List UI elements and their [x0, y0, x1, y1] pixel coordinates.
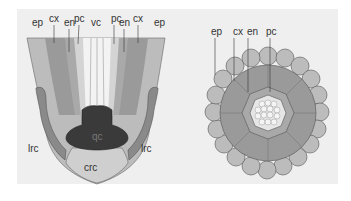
label-lrc-right: lrc	[141, 143, 152, 154]
label-ep: ep	[211, 26, 223, 37]
label-pc: pc	[266, 26, 277, 37]
label-qc: qc	[92, 131, 103, 142]
label-ep-left: ep	[32, 17, 44, 28]
root-diagram: ep cx en pc vc pc en cx ep qc lrc lrc cr…	[0, 0, 351, 201]
label-lrc-left: lrc	[28, 143, 39, 154]
label-cx-right: cx	[133, 13, 143, 24]
label-en-right: en	[119, 17, 130, 28]
label-ep-right: ep	[154, 17, 166, 28]
label-cx-left: cx	[49, 13, 59, 24]
label-cx: cx	[233, 26, 243, 37]
label-vc: vc	[91, 17, 101, 28]
root-cross-section: ep cx en pc	[205, 26, 329, 179]
label-en: en	[247, 26, 258, 37]
label-crc: crc	[84, 162, 97, 173]
root-tip-longitudinal: ep cx en pc vc pc en cx ep qc lrc lrc cr…	[27, 13, 166, 184]
label-pc-left: pc	[74, 13, 85, 24]
